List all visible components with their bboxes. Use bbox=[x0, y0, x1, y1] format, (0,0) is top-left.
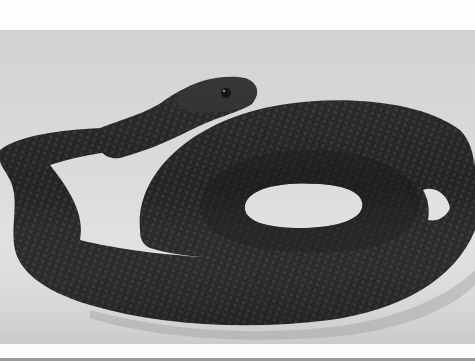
top-white-border bbox=[0, 0, 475, 30]
snake-photo bbox=[0, 30, 475, 346]
bottom-white-border bbox=[0, 344, 475, 359]
photo-sheen bbox=[0, 30, 475, 346]
